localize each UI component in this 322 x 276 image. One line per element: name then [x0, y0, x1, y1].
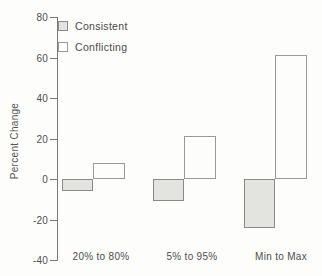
bar-chart-figure: Percent Change 806040200-20-40 Consisten…: [0, 0, 322, 276]
y-tick-mark: [50, 260, 57, 261]
y-tick-label: 0: [22, 174, 48, 185]
bar-consistent-1: [62, 179, 93, 191]
y-tick-label: -40: [22, 255, 48, 266]
legend-item-conflicting: Conflicting: [58, 41, 128, 53]
legend-label-consistent: Consistent: [75, 20, 128, 32]
y-tick-label: 40: [22, 93, 48, 104]
legend-item-consistent: Consistent: [58, 20, 128, 32]
bar-conflicting-3: [275, 55, 307, 179]
bar-conflicting-1: [93, 163, 125, 179]
y-tick-mark: [50, 179, 57, 180]
y-tick-mark: [50, 17, 57, 18]
conflicting-swatch-icon: [58, 42, 68, 52]
y-tick-label: 20: [22, 134, 48, 145]
y-tick-mark: [50, 98, 57, 99]
category-label-1: 20% to 80%: [73, 251, 130, 262]
legend-label-conflicting: Conflicting: [75, 41, 127, 53]
y-tick-mark: [50, 58, 57, 59]
bar-consistent-3: [244, 179, 275, 228]
y-tick-mark: [50, 220, 57, 221]
consistent-swatch-icon: [58, 21, 68, 31]
y-tick-mark: [50, 139, 57, 140]
bar-conflicting-2: [184, 136, 216, 179]
y-axis-title: Percent Change: [9, 103, 20, 179]
category-label-3: Min to Max: [255, 251, 307, 262]
y-tick-label: 60: [22, 53, 48, 64]
legend: Consistent Conflicting: [58, 20, 128, 62]
y-tick-label: -20: [22, 215, 48, 226]
bar-consistent-2: [153, 179, 184, 201]
category-label-2: 5% to 95%: [166, 251, 217, 262]
y-tick-label: 80: [22, 12, 48, 23]
